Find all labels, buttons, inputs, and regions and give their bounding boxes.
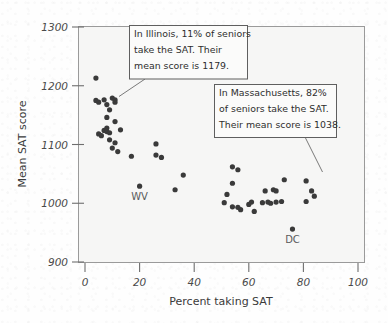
y-tick-label-1200: 1200: [41, 80, 68, 92]
massachusetts-callout-line-3: Their mean score is 1038.: [218, 119, 341, 130]
data-point: [260, 200, 265, 205]
data-point: [107, 130, 112, 135]
data-point: [104, 115, 109, 120]
x-tick-label-80: 80: [297, 276, 311, 288]
data-point: [235, 167, 240, 172]
data-point: [153, 152, 158, 157]
x-tick-label-40: 40: [188, 276, 202, 288]
illinois-callout-line-3: mean score is 1179.: [134, 60, 229, 71]
x-tick-label-20: 20: [133, 276, 147, 288]
y-tick-label-1000: 1000: [41, 197, 68, 209]
data-point: [172, 187, 177, 192]
data-point: [222, 200, 227, 205]
data-point: [181, 172, 186, 177]
data-point: [112, 100, 117, 105]
data-point: [230, 181, 235, 186]
annotation-massachusetts: In Massachusetts, 82% of seniors take th…: [215, 85, 341, 138]
data-point: [304, 178, 309, 183]
scatter-chart: 9001000110012001300 020406080100 WVDC In…: [0, 0, 388, 323]
data-point: [137, 184, 142, 189]
data-point: [112, 140, 117, 145]
data-point: [104, 102, 109, 107]
data-point: [102, 97, 107, 102]
illinois-callout-line-1: In Illinois, 11% of seniors: [134, 28, 251, 39]
data-point: [115, 149, 120, 154]
illinois-callout-line-2: take the SAT. Their: [134, 44, 222, 55]
data-point: [93, 76, 98, 81]
massachusetts-callout-line-1: In Massachusetts, 82%: [219, 87, 327, 98]
massachusetts-callout-line-2: of seniors take the SAT.: [219, 103, 329, 114]
data-point: [118, 127, 123, 132]
data-point: [304, 199, 309, 204]
data-point: [309, 188, 314, 193]
data-point: [107, 107, 112, 112]
data-point: [107, 137, 112, 142]
data-point: [268, 201, 273, 206]
x-tick-label-60: 60: [242, 276, 256, 288]
data-point: [274, 188, 279, 193]
y-axis-title: Mean SAT score: [16, 100, 29, 187]
annotation-illinois: In Illinois, 11% of seniors take the SAT…: [130, 26, 252, 80]
point-label-dc: DC: [285, 234, 300, 245]
data-point: [312, 194, 317, 199]
data-point: [96, 100, 101, 105]
data-point: [99, 133, 104, 138]
point-label-wv: WV: [131, 191, 148, 202]
data-point: [263, 188, 268, 193]
data-point: [249, 199, 254, 204]
y-tick-label-1300: 1300: [41, 21, 68, 33]
data-point: [230, 204, 235, 209]
data-point: [153, 141, 158, 146]
plot-svg: 9001000110012001300 020406080100 WVDC In…: [0, 0, 388, 323]
data-point: [112, 119, 117, 124]
data-point: [279, 199, 284, 204]
data-point: [129, 154, 134, 159]
data-point: [230, 164, 235, 169]
y-axis-ticks: 9001000110012001300: [41, 21, 84, 268]
data-point: [224, 192, 229, 197]
y-tick-label-1100: 1100: [41, 139, 68, 151]
data-point: [252, 209, 257, 214]
data-point: [159, 155, 164, 160]
x-axis-ticks: 020406080100: [82, 263, 369, 288]
data-point: [282, 177, 287, 182]
data-point: [290, 227, 295, 232]
data-point: [104, 125, 109, 130]
x-tick-label-0: 0: [82, 276, 89, 288]
x-tick-label-100: 100: [348, 276, 368, 288]
x-axis-title: Percent taking SAT: [169, 295, 273, 308]
y-tick-label-900: 900: [48, 256, 68, 268]
data-point: [110, 145, 115, 150]
data-point: [274, 199, 279, 204]
data-point: [238, 207, 243, 212]
